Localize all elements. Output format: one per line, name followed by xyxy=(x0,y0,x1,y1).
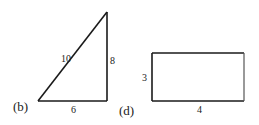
triangle-hypotenuse xyxy=(38,12,107,101)
hypotenuse-length-label: 10 xyxy=(61,53,71,64)
rectangle-width-label: 4 xyxy=(197,104,202,115)
part-label-b: (b) xyxy=(13,99,28,114)
horizontal-leg-length-label: 6 xyxy=(71,104,76,115)
rectangle-figure: 3 4 (d) xyxy=(119,53,244,118)
rectangle-height-label: 3 xyxy=(142,72,147,83)
vertical-leg-length-label: 8 xyxy=(110,55,115,66)
part-label-d: (d) xyxy=(119,103,134,118)
diagram-canvas: 10 8 6 (b) 3 4 (d) xyxy=(0,0,259,125)
triangle-figure: 10 8 6 (b) xyxy=(13,12,115,115)
